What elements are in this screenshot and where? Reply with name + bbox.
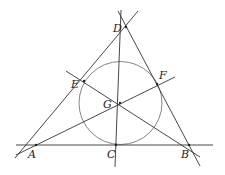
geometry-diagram: A B C D E F G	[0, 0, 225, 175]
point-a	[35, 144, 37, 146]
line-af	[16, 77, 175, 155]
label-d: D	[112, 22, 122, 35]
label-c: C	[107, 148, 116, 161]
label-f: F	[158, 69, 167, 82]
label-e: E	[70, 78, 79, 91]
line-bd	[118, 11, 200, 166]
point-e	[83, 80, 85, 82]
point-d	[125, 26, 127, 28]
label-a: A	[27, 148, 36, 161]
point-b	[188, 144, 190, 146]
point-g	[119, 102, 121, 104]
label-g: G	[103, 98, 112, 111]
label-b: B	[180, 148, 189, 161]
line-be	[66, 71, 200, 157]
point-c	[115, 144, 117, 146]
point-f	[156, 83, 158, 85]
